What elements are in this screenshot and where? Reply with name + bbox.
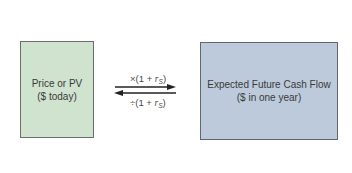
price-pv-label: Price or PV <box>32 77 83 90</box>
price-pv-sublabel: ($ today) <box>37 90 76 103</box>
left-arrow-icon <box>114 90 176 96</box>
future-cash-flow-sublabel: ($ in one year) <box>237 91 301 104</box>
discount-operator-label: ÷(1 + rS) <box>130 97 166 109</box>
future-cash-flow-node: Expected Future Cash Flow ($ in one year… <box>200 42 338 140</box>
expr-prefix: (1 + <box>135 97 154 108</box>
future-cash-flow-label: Expected Future Cash Flow <box>207 78 330 91</box>
bidirectional-arrows <box>110 82 180 98</box>
price-pv-node: Price or PV ($ today) <box>20 41 94 138</box>
right-arrow-icon <box>115 84 176 90</box>
expr-suffix: ) <box>163 97 166 108</box>
